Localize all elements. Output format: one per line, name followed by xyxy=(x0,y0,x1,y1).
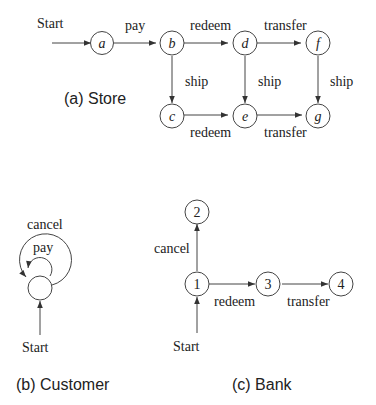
customer-pay-loop xyxy=(28,258,52,276)
edge-label-transfer: transfer xyxy=(287,294,330,309)
edge-label-transfer-top: transfer xyxy=(264,18,307,33)
bank-node-4: 4 xyxy=(329,272,353,296)
edge-label-ship-d-e: ship xyxy=(258,74,281,89)
node-label-3: 3 xyxy=(265,277,272,292)
store-node-b: b xyxy=(160,31,184,55)
customer-self-loop-label-cancel: cancel xyxy=(27,217,63,232)
edge-label-redeem-top: redeem xyxy=(190,18,231,33)
bank-node-2: 2 xyxy=(185,200,209,224)
bank-start-label: Start xyxy=(173,339,200,354)
edge-label-transfer-bottom: transfer xyxy=(264,125,307,140)
node-label-2: 2 xyxy=(194,205,201,220)
bank-diagram: cancel redeem transfer Start 2 1 3 4 (c)… xyxy=(154,200,353,393)
bank-caption: (c) Bank xyxy=(232,376,293,393)
node-label-d: d xyxy=(242,36,250,51)
node-label-4: 4 xyxy=(338,277,345,292)
edge-label-ship-f-g: ship xyxy=(330,74,353,89)
edge-label-redeem-bottom: redeem xyxy=(190,125,231,140)
store-caption: (a) Store xyxy=(64,90,126,107)
store-node-g: g xyxy=(306,104,330,128)
store-node-c: c xyxy=(160,104,184,128)
bank-node-3: 3 xyxy=(256,272,280,296)
node-label-g: g xyxy=(315,109,322,124)
diagram-canvas: Start pay redeem transfer ship ship ship… xyxy=(0,0,376,405)
node-label-e: e xyxy=(242,109,248,124)
customer-self-loop-label-pay: pay xyxy=(33,240,53,255)
edge-label-ship-b-c: ship xyxy=(185,74,208,89)
store-node-d: d xyxy=(233,31,257,55)
node-label-c: c xyxy=(169,109,176,124)
customer-caption: (b) Customer xyxy=(16,376,110,393)
node-label-1: 1 xyxy=(194,277,201,292)
node-label-b: b xyxy=(169,36,176,51)
customer-start-label: Start xyxy=(22,340,49,355)
edge-label-cancel: cancel xyxy=(154,241,190,256)
edge-label-redeem: redeem xyxy=(214,294,255,309)
store-node-e: e xyxy=(233,104,257,128)
edge-label-pay: pay xyxy=(125,18,145,33)
node-label-a: a xyxy=(99,36,106,51)
store-node-f: f xyxy=(306,31,330,55)
bank-node-1: 1 xyxy=(185,272,209,296)
customer-node xyxy=(28,276,52,300)
store-start-label: Start xyxy=(37,16,64,31)
customer-diagram: cancel pay Start (b) Customer xyxy=(16,217,110,393)
store-diagram: Start pay redeem transfer ship ship ship… xyxy=(37,16,353,140)
store-node-a: a xyxy=(91,32,114,55)
